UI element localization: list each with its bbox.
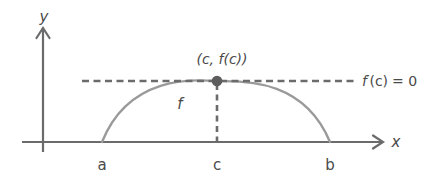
critical-point-label: (c, f(c)) [196, 51, 247, 67]
derivative-label-arg: (c) [369, 73, 388, 89]
critical-point-dot [212, 76, 223, 87]
rolles-theorem-figure: (c, f(c)) f f′(c)= 0 y x a c b [0, 0, 431, 177]
y-axis-label: y [39, 8, 50, 26]
x-axis-label: x [391, 133, 401, 151]
figure-container: (c, f(c)) f f′(c)= 0 y x a c b [0, 0, 431, 177]
tick-label-b: b [325, 156, 335, 174]
tick-label-c: c [213, 156, 221, 174]
tick-label-a: a [97, 156, 106, 174]
derivative-label-equals: = 0 [392, 73, 417, 89]
